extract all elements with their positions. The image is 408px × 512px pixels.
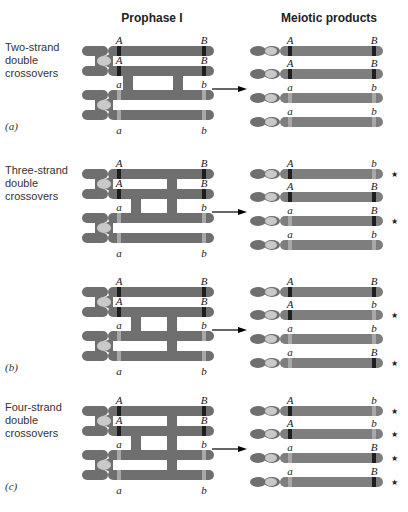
centromere	[265, 454, 277, 462]
gene-label-left: a	[116, 124, 122, 136]
gene-band	[202, 110, 206, 120]
gene-label-left: a	[116, 247, 122, 259]
centromere	[97, 179, 111, 189]
gene-band	[372, 216, 376, 226]
centromere	[265, 170, 277, 178]
gene-band	[372, 69, 376, 79]
gene-band	[202, 470, 206, 480]
gene-band	[288, 334, 292, 344]
product-label-left: A	[286, 394, 294, 406]
meiotic-product: Ab★	[250, 394, 398, 416]
gene-band	[372, 310, 376, 320]
gene-band	[117, 470, 121, 480]
gene-band	[372, 93, 376, 103]
crossover-bridge	[131, 431, 141, 455]
chromatid	[108, 406, 214, 416]
product-label-right: B	[371, 346, 378, 358]
gene-band	[202, 307, 206, 317]
product-label-right: b	[371, 157, 377, 169]
gene-band	[288, 429, 292, 439]
gene-band	[372, 287, 376, 297]
gene-band	[288, 117, 292, 127]
centromere	[265, 193, 277, 201]
centromere	[97, 56, 111, 66]
double-crossover-diagram: Prophase I Meiotic products Two-stranddo…	[0, 0, 408, 512]
chromatid	[108, 213, 214, 223]
meiotic-product: aB★	[250, 346, 398, 368]
gene-band	[372, 46, 376, 56]
meiotic-product: aB★	[250, 441, 398, 463]
centromere	[265, 311, 277, 319]
gene-band	[288, 216, 292, 226]
recombinant-star-icon: ★	[391, 359, 398, 368]
gene-label-right: b	[201, 124, 207, 136]
gene-label-left: A	[115, 34, 123, 46]
panel-part-label: (a)	[5, 120, 18, 133]
gene-band	[117, 233, 121, 243]
gene-label-right: b	[201, 365, 207, 377]
gene-band	[372, 453, 376, 463]
gene-band	[288, 453, 292, 463]
panel-side-label: crossovers	[5, 190, 59, 202]
centromere	[265, 241, 277, 249]
gene-label-right: b	[201, 247, 207, 259]
product-label-left: A	[286, 417, 294, 429]
meiotic-product: AB	[250, 34, 383, 56]
meiotic-product: ab	[250, 81, 383, 103]
gene-band	[288, 477, 292, 487]
gene-label-left: a	[116, 438, 122, 450]
gene-band	[372, 358, 376, 368]
panel-side-label: crossovers	[5, 427, 59, 439]
gene-band	[372, 117, 376, 127]
product-label-left: a	[287, 81, 293, 93]
product-label-left: a	[287, 204, 293, 216]
gene-band	[117, 189, 121, 199]
gene-label-right: b	[201, 319, 207, 331]
panel-side-label: Three-strand	[5, 164, 68, 176]
chromatid	[108, 46, 214, 56]
product-label-left: A	[286, 34, 294, 46]
panel-side-label: double	[5, 414, 38, 426]
gene-label-right: B	[201, 275, 208, 287]
product-label-right: b	[371, 394, 377, 406]
chromatid	[108, 307, 214, 317]
gene-band	[117, 66, 121, 76]
gene-band	[202, 426, 206, 436]
gene-band	[117, 307, 121, 317]
product-label-left: a	[287, 346, 293, 358]
gene-band	[117, 450, 121, 460]
panel-b1: Three-stranddoublecrossoversABABababAb★A…	[5, 157, 398, 259]
gene-band	[372, 477, 376, 487]
product-label-left: A	[286, 298, 294, 310]
crossover-bridge	[131, 194, 141, 218]
gene-band	[288, 93, 292, 103]
meiotic-product: ab	[250, 228, 383, 250]
meiotic-product: Ab★	[250, 298, 398, 320]
product-label-right: b	[371, 417, 377, 429]
gene-band	[288, 358, 292, 368]
product-label-right: B	[371, 57, 378, 69]
product-label-left: A	[286, 180, 294, 192]
gene-label-left: A	[115, 394, 123, 406]
panel-side-label: Two-strand	[5, 41, 59, 53]
gene-label-left: A	[115, 177, 123, 189]
gene-label-right: B	[201, 394, 208, 406]
gene-band	[288, 310, 292, 320]
gene-band	[202, 450, 206, 460]
gene-band	[372, 169, 376, 179]
gene-label-left: A	[115, 414, 123, 426]
panel-part-label: (b)	[5, 361, 18, 374]
gene-label-left: A	[115, 54, 123, 66]
product-label-left: a	[287, 105, 293, 117]
recombinant-star-icon: ★	[391, 430, 398, 439]
gene-label-right: B	[201, 54, 208, 66]
recombinant-star-icon: ★	[391, 407, 398, 416]
gene-band	[288, 69, 292, 79]
centromere	[265, 217, 277, 225]
meiotic-product: Ab★	[250, 417, 398, 439]
gene-band	[288, 169, 292, 179]
meiotic-product: AB	[250, 275, 383, 297]
gene-band	[202, 90, 206, 100]
product-label-left: a	[287, 228, 293, 240]
panel-side-label: double	[5, 177, 38, 189]
